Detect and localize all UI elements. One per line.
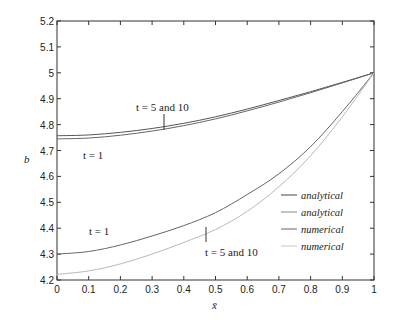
y-tick-label: 5.2 (40, 16, 54, 27)
annotation-upper-t5-10: t = 5 and 10 (136, 101, 189, 113)
x-tick-label: 0.3 (145, 284, 159, 295)
y-tick-label: 5.1 (40, 42, 54, 53)
line-chart: 00.10.20.30.40.50.60.70.80.914.24.34.44.… (0, 0, 394, 328)
x-tick-label: 0.2 (113, 284, 127, 295)
x-tick-label: 0.1 (82, 284, 96, 295)
legend-label: numerical (301, 241, 344, 252)
legend: analyticalanalyticalnumericalnumerical (281, 190, 344, 252)
y-tick-label: 4.9 (40, 94, 54, 105)
x-axis-label: x̄ (211, 299, 217, 311)
legend-label: analytical (301, 207, 343, 218)
y-tick-label: 5 (48, 68, 54, 79)
x-tick-label: 1 (371, 284, 377, 295)
legend-label: analytical (301, 190, 343, 201)
y-tick-label: 4.6 (40, 171, 54, 182)
x-tick-label: 0.6 (240, 284, 254, 295)
x-tick-label: 0.5 (209, 284, 223, 295)
x-tick-label: 0.7 (272, 284, 286, 295)
y-axis-label: b (24, 153, 30, 165)
y-tick-label: 4.3 (40, 249, 54, 260)
x-tick-label: 0 (54, 284, 60, 295)
y-tick-label: 4.5 (40, 197, 54, 208)
x-tick-label: 0.9 (335, 284, 349, 295)
y-tick-label: 4.2 (40, 275, 54, 286)
annotation-lower-t1: t = 1 (89, 225, 109, 237)
legend-label: numerical (301, 224, 344, 235)
annotation-lower-t5-10: t = 5 and 10 (205, 246, 258, 258)
y-tick-label: 4.4 (40, 223, 54, 234)
x-tick-label: 0.8 (304, 284, 318, 295)
series-line-analytical-upper (57, 73, 374, 136)
y-tick-label: 4.7 (40, 146, 54, 157)
series-line-analytical-upper (57, 73, 374, 139)
y-tick-label: 4.8 (40, 120, 54, 131)
annotations: t = 5 and 10 t = 1 t = 1 t = 5 and 10 (83, 101, 258, 258)
x-tick-label: 0.4 (177, 284, 191, 295)
annotation-upper-t1: t = 1 (83, 149, 103, 161)
